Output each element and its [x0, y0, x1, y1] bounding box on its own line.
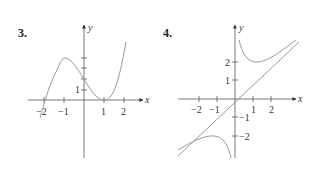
y-axis-label: y	[87, 22, 93, 33]
tick-label: 1	[75, 84, 80, 95]
graph-4: −2 −1 1 2 2 1 −1 −2 x y	[178, 22, 303, 158]
curve-lower-branch	[178, 136, 231, 158]
tick-label: −1	[209, 104, 220, 115]
tick-label: 1	[225, 75, 230, 86]
x-axis-label: x	[144, 94, 150, 105]
tick-label: 2	[269, 104, 274, 115]
tick-label: 2	[121, 106, 126, 117]
tick-label: −1	[58, 106, 69, 117]
tick-label: 1	[101, 106, 106, 117]
curve-upper-branch	[239, 40, 296, 62]
tick-label: −1	[239, 112, 250, 123]
tick-label: −2	[239, 131, 250, 142]
y-axis-label: y	[238, 22, 244, 33]
tick-label: −2	[191, 104, 202, 115]
graphs-canvas: −2 −1 1 2 1 x y −2 −1 1 2 2 1 −1 −2 x y	[0, 0, 320, 176]
tick-label: 2	[225, 57, 230, 68]
graph-3: −2 −1 1 2 1 x y	[28, 22, 150, 158]
curve	[40, 42, 126, 118]
x-axis-label: x	[297, 93, 303, 104]
tick-label: 1	[251, 104, 256, 115]
